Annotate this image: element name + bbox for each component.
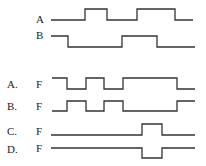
input-b-label: B bbox=[36, 30, 43, 41]
waveform-option-c bbox=[51, 124, 195, 135]
option-d-letter: D. bbox=[7, 144, 18, 155]
waveform-option-b bbox=[52, 101, 195, 111]
input-a-label: A bbox=[36, 14, 44, 25]
waveform-option-d bbox=[51, 148, 195, 158]
option-d-signal: F bbox=[36, 143, 42, 154]
option-c-signal: F bbox=[36, 126, 42, 137]
option-a-letter: A. bbox=[7, 79, 18, 90]
option-b-signal: F bbox=[36, 101, 42, 112]
option-b-letter: B. bbox=[7, 101, 17, 112]
waveform-input-a bbox=[51, 9, 193, 20]
waveform-input-b bbox=[51, 36, 195, 47]
waveform-option-a bbox=[52, 78, 195, 89]
option-a-signal: F bbox=[36, 79, 42, 90]
option-c-letter: C. bbox=[7, 126, 17, 137]
timing-diagram bbox=[0, 0, 206, 166]
